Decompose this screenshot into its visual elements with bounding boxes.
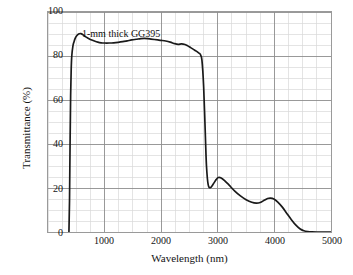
x-axis-title: Wavelength (nm) <box>47 252 332 264</box>
y-tick-label: 40 <box>53 139 63 149</box>
transmittance-chart: 1-mm thick GG395 10002000300040005000 02… <box>0 0 353 275</box>
x-tick-label: 2000 <box>151 236 171 246</box>
y-tick-label: 100 <box>48 6 63 16</box>
y-axis-title: Transmittance (%) <box>20 53 32 203</box>
data-series-curve <box>48 12 331 232</box>
y-tick-label: 0 <box>58 228 63 238</box>
y-tick-label: 80 <box>53 50 63 60</box>
x-tick-label: 4000 <box>265 236 285 246</box>
x-tick-label: 5000 <box>322 236 342 246</box>
x-tick-label: 1000 <box>94 236 114 246</box>
y-tick-label: 60 <box>53 95 63 105</box>
series-annotation: 1-mm thick GG395 <box>82 28 160 39</box>
plot-area <box>47 11 332 233</box>
y-tick-label: 20 <box>53 184 63 194</box>
x-tick-label: 3000 <box>208 236 228 246</box>
